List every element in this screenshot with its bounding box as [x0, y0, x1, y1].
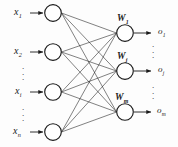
- input-ellipsis-1: ...: [19, 64, 27, 81]
- input-label-x1: x1: [14, 7, 22, 17]
- edges-group: [62, 13, 117, 132]
- weight-label-wj: Wj: [117, 52, 127, 62]
- edge-x1-o1: [62, 13, 117, 33]
- output-node-oj: [117, 63, 134, 80]
- input-label-xn: xn: [13, 126, 21, 136]
- input-label-x2: x2: [14, 46, 22, 56]
- output-ellipsis-2: ...: [149, 83, 157, 100]
- input-arrows-group: [30, 13, 43, 132]
- input-node-x2: [45, 44, 62, 61]
- edge-xi-oj: [62, 71, 117, 92]
- edge-x2-o1: [62, 33, 117, 52]
- output-node-o1: [117, 25, 134, 42]
- edge-xi-om: [62, 92, 117, 112]
- output-nodes-group: [117, 25, 134, 121]
- input-label-xi: xi: [15, 86, 21, 96]
- output-label-om: om: [157, 106, 166, 115]
- edge-xn-o1: [62, 33, 117, 132]
- input-ellipsis-2: ...: [19, 105, 27, 122]
- edge-xn-oj: [62, 71, 117, 132]
- neural-network-figure: x1 x2 xi xn ... ... W1 Wj Wm o1 oj om ..…: [0, 0, 178, 147]
- weight-label-wm: Wm: [115, 93, 128, 103]
- output-label-oj: oj: [158, 65, 164, 74]
- input-node-xi: [45, 84, 62, 101]
- edge-xn-om: [62, 112, 117, 132]
- edge-x2-oj: [62, 52, 117, 71]
- input-node-xn: [45, 124, 62, 141]
- output-node-om: [117, 104, 134, 121]
- weight-label-w1: W1: [117, 14, 128, 24]
- output-label-o1: o1: [158, 27, 165, 36]
- output-ellipsis-1: ...: [149, 42, 157, 59]
- input-nodes-group: [45, 5, 62, 141]
- input-node-x1: [45, 5, 62, 22]
